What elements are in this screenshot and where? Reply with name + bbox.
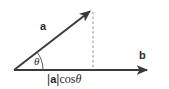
projection-length-label: |a|cosθ [47,73,81,85]
vector-projection-figure: a b θ |a|cosθ [0,0,169,89]
vector-b-label: b [139,50,146,61]
cosine-function-label: cos [59,72,75,86]
angle-theta-label: θ [34,56,39,67]
vector-a-arrow [14,11,90,70]
figure-canvas [0,0,169,89]
projection-angle-symbol: θ [75,72,81,86]
vector-a-label: a [40,21,46,32]
